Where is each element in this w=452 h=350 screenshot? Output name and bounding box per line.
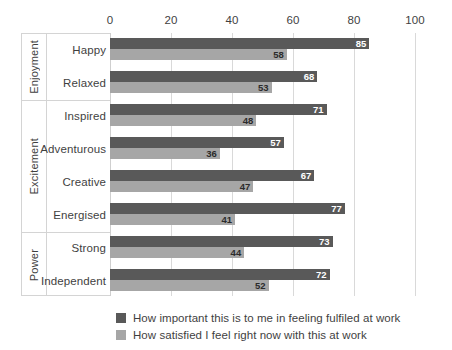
group-divider [22, 232, 110, 233]
group-label-enjoyment: Enjoyment [22, 34, 46, 100]
category-label-happy: Happy [46, 39, 106, 61]
legend-item-important[interactable]: How important this is to me in feeling f… [116, 310, 436, 325]
bar-group-happy: 8558 [110, 38, 415, 60]
x-axis-tick-80: 80 [348, 14, 361, 26]
bar-value-label: 71 [313, 105, 324, 115]
category-label-strong: Strong [46, 237, 106, 259]
group-label-text: Power [28, 249, 40, 281]
category-label-relaxed: Relaxed [46, 72, 106, 94]
bar-value-label: 73 [319, 237, 330, 247]
bar-group-creative: 6747 [110, 170, 415, 192]
bar-creative-satisfied: 47 [110, 181, 253, 192]
group-label-power: Power [22, 232, 46, 298]
bar-value-label: 36 [206, 149, 217, 159]
bar-relaxed-important: 68 [110, 71, 317, 82]
x-axis-tick-0: 0 [107, 14, 114, 26]
grouped-bar-chart: 020406080100 855868537148573667477741734… [0, 0, 452, 350]
category-label-panel: HappyRelaxedInspiredAdventurousCreativeE… [21, 33, 110, 296]
bar-value-label: 48 [243, 116, 254, 126]
bar-value-label: 67 [301, 171, 312, 181]
plot-area: 85586853714857366747774173447252 [110, 33, 415, 296]
bar-energised-important: 77 [110, 203, 345, 214]
category-label-independent: Independent [46, 270, 106, 292]
bar-energised-satisfied: 41 [110, 214, 235, 225]
bar-relaxed-satisfied: 53 [110, 82, 272, 93]
group-label-text: Excitement [28, 138, 40, 194]
bar-value-label: 44 [231, 248, 242, 258]
bar-adventurous-satisfied: 36 [110, 148, 220, 159]
bar-value-label: 47 [240, 182, 251, 192]
bar-value-label: 58 [273, 50, 284, 60]
bar-value-label: 41 [221, 215, 232, 225]
bar-value-label: 85 [356, 39, 367, 49]
bar-happy-satisfied: 58 [110, 49, 287, 60]
category-label-adventurous: Adventurous [46, 138, 106, 160]
category-label-inspired: Inspired [46, 105, 106, 127]
x-axis-tick-labels: 020406080100 [0, 14, 452, 30]
group-label-excitement: Excitement [22, 100, 46, 232]
bar-inspired-satisfied: 48 [110, 115, 256, 126]
bar-group-relaxed: 6853 [110, 71, 415, 93]
bar-group-inspired: 7148 [110, 104, 415, 126]
category-label-energised: Energised [46, 204, 106, 226]
bar-group-independent: 7252 [110, 269, 415, 291]
group-divider [22, 100, 110, 101]
bar-adventurous-important: 57 [110, 137, 284, 148]
bar-group-energised: 7741 [110, 203, 415, 225]
bar-independent-important: 72 [110, 269, 330, 280]
bar-inspired-important: 71 [110, 104, 327, 115]
bar-value-label: 77 [331, 204, 342, 214]
bar-strong-satisfied: 44 [110, 247, 244, 258]
group-label-text: Enjoyment [28, 40, 40, 94]
bar-group-adventurous: 5736 [110, 137, 415, 159]
bar-value-label: 72 [316, 270, 327, 280]
x-axis-tick-100: 100 [405, 14, 425, 26]
legend-item-satisfied[interactable]: How satisfied I feel right now with this… [116, 327, 436, 342]
x-axis-tick-40: 40 [226, 14, 239, 26]
x-axis-tick-60: 60 [287, 14, 300, 26]
bar-rows: 85586853714857366747774173447252 [110, 33, 415, 296]
bar-value-label: 68 [304, 72, 315, 82]
bar-value-label: 53 [258, 83, 269, 93]
gridline-100 [415, 33, 416, 296]
legend-label: How important this is to me in feeling f… [133, 312, 400, 324]
bar-group-strong: 7344 [110, 236, 415, 258]
category-label-creative: Creative [46, 171, 106, 193]
bar-creative-important: 67 [110, 170, 314, 181]
legend-swatch-icon [116, 313, 126, 323]
bar-value-label: 57 [270, 138, 281, 148]
bar-value-label: 52 [255, 281, 266, 291]
bar-independent-satisfied: 52 [110, 280, 269, 291]
bar-happy-important: 85 [110, 38, 369, 49]
x-axis-tick-20: 20 [165, 14, 178, 26]
bar-strong-important: 73 [110, 236, 333, 247]
legend-swatch-icon [116, 330, 126, 340]
chart-legend: How important this is to me in feeling f… [116, 310, 436, 344]
legend-label: How satisfied I feel right now with this… [133, 329, 367, 341]
